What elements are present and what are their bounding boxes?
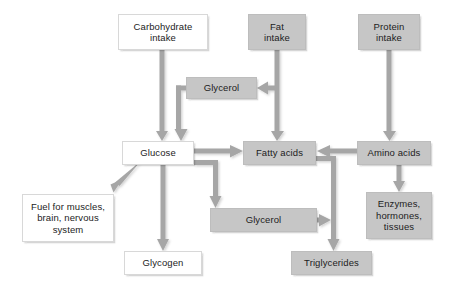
node-glycerol-top[interactable]: Glycerol <box>186 77 257 99</box>
node-glycogen[interactable]: Glycogen <box>124 251 202 275</box>
node-fuel-for-muscles[interactable]: Fuel for muscles,brain, nervoussystem <box>22 194 114 242</box>
edge-glucose-to-fuel <box>111 162 141 193</box>
edge-fat-to-fattyacids <box>271 50 284 141</box>
node-label: Enzymes,hormones,tissues <box>376 198 422 233</box>
node-label: Fatintake <box>264 21 290 44</box>
flowchart-diagram: Carbohydrateintake Fatintake Proteininta… <box>0 0 454 287</box>
edge-protein-to-aminoacids <box>383 50 396 141</box>
node-label: Fatty acids <box>256 147 303 159</box>
edge-glucose-to-glycerol-bottom <box>194 160 222 208</box>
edge-fat-to-glycerol-top <box>257 82 276 95</box>
node-label: Glycogen <box>143 257 184 269</box>
node-triglycerides[interactable]: Triglycerides <box>291 251 372 275</box>
node-amino-acids[interactable]: Amino acids <box>357 141 431 165</box>
edge-glucose-to-glycogen <box>157 165 169 251</box>
node-enzymes-hormones-tissues[interactable]: Enzymes,hormones,tissues <box>366 192 432 239</box>
edge-fattyacids-to-triglycerides <box>316 156 340 251</box>
node-label: Proteinintake <box>374 21 405 44</box>
node-carbohydrate-intake[interactable]: Carbohydrateintake <box>118 14 208 50</box>
node-label: Carbohydrateintake <box>134 21 193 44</box>
node-protein-intake[interactable]: Proteinintake <box>358 14 420 50</box>
node-glucose[interactable]: Glucose <box>122 141 194 165</box>
edge-glucose-to-fattyacids <box>194 145 243 158</box>
node-label: Glucose <box>140 147 176 159</box>
node-label: Fuel for muscles,brain, nervoussystem <box>31 201 105 236</box>
node-glycerol-bottom[interactable]: Glycerol <box>210 208 317 232</box>
node-label: Amino acids <box>368 147 421 159</box>
node-label: Triglycerides <box>304 257 359 269</box>
edge-carb-to-glucose <box>156 50 168 141</box>
node-fat-intake[interactable]: Fatintake <box>248 14 306 50</box>
node-label: Glycerol <box>204 82 240 94</box>
edge-glycerol-bottom-to-triglycerides <box>317 214 331 227</box>
edge-aminoacids-to-enzymes <box>393 165 405 192</box>
node-label: Glycerol <box>246 214 282 226</box>
node-fatty-acids[interactable]: Fatty acids <box>243 141 316 165</box>
edge-aminoacids-to-fattyacids <box>317 145 357 158</box>
